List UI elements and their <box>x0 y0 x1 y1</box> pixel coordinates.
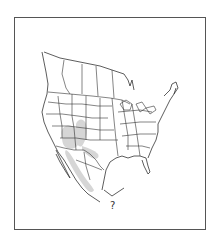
range-shading <box>62 120 99 193</box>
political-borders <box>46 60 156 180</box>
unknown-range-label: ? <box>110 200 115 211</box>
